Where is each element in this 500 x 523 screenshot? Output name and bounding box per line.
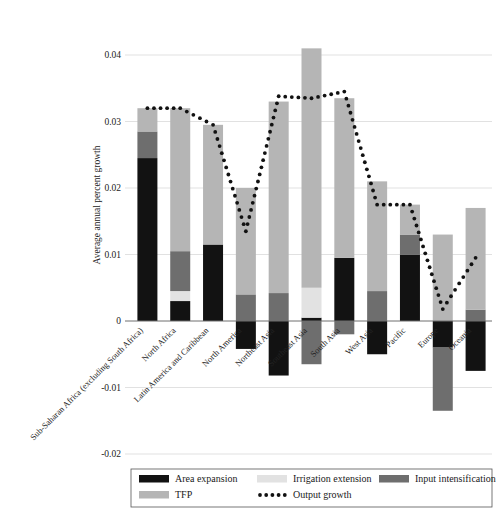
output-growth-dot: [249, 208, 253, 212]
output-growth-dot: [347, 104, 351, 108]
bar-segment: [170, 291, 190, 301]
output-growth-dot: [408, 203, 412, 207]
output-growth-dot: [296, 96, 300, 100]
y-tick-label: 0.02: [104, 183, 121, 193]
bar-segment: [236, 294, 256, 321]
output-growth-dot: [275, 101, 279, 105]
output-growth-dot: [470, 262, 474, 266]
output-growth-dot: [266, 137, 270, 141]
output-growth-dot: [216, 137, 220, 141]
bar-segment: [367, 291, 387, 321]
bar-segment: [269, 293, 289, 321]
output-growth-dot: [310, 96, 314, 100]
output-growth-dot: [415, 224, 419, 228]
legend-dot-marker: [277, 493, 281, 497]
output-growth-dot: [367, 174, 371, 178]
chart-legend: Area expansionIrrigation extensionInput …: [131, 469, 496, 507]
output-growth-dot: [426, 258, 430, 262]
output-growth-dot: [226, 173, 230, 177]
bar-segment: [137, 131, 157, 158]
x-axis-category-labels: Sub-Saharan Africa (excluding South Afri…: [28, 325, 473, 442]
output-growth-dot: [205, 120, 209, 124]
output-growth-dot: [430, 272, 434, 276]
bar-segment: [334, 98, 354, 258]
output-growth-dot: [465, 269, 469, 273]
output-growth-dot: [159, 106, 163, 110]
output-growth-dot: [323, 94, 327, 98]
output-growth-dot: [258, 172, 262, 176]
bar-segment: [203, 125, 223, 245]
output-growth-dot: [382, 203, 386, 207]
output-growth-dot: [457, 282, 461, 286]
output-growth-dot: [474, 256, 478, 260]
bar-segment: [269, 102, 289, 294]
output-growth-dot: [237, 208, 241, 212]
output-growth-dot: [401, 203, 405, 207]
bar-segment: [367, 321, 387, 354]
output-growth-dot: [359, 146, 363, 150]
output-growth-dot: [375, 203, 379, 207]
output-growth-dot: [253, 194, 257, 198]
output-growth-dot: [344, 97, 348, 101]
output-growth-dot: [222, 158, 226, 162]
output-growth-dot: [242, 222, 246, 226]
output-growth-dot: [373, 196, 377, 200]
output-growth-dot: [428, 265, 432, 269]
stacked-bar-chart: 0.040.030.020.010-0.01-0.02 Average annu…: [0, 0, 500, 523]
chart-figure: 0.040.030.020.010-0.01-0.02 Average annu…: [0, 0, 500, 523]
output-growth-dot: [178, 106, 182, 110]
bar-segment: [466, 310, 486, 321]
output-growth-dot: [256, 180, 260, 184]
output-growth-dot: [277, 94, 281, 98]
output-growth-dot: [260, 165, 264, 169]
output-growth-dot: [224, 165, 228, 169]
legend-dot-marker: [258, 493, 262, 497]
legend-dot-marker: [283, 493, 287, 497]
output-growth-dot: [316, 95, 320, 99]
output-growth-dot: [247, 215, 251, 219]
y-tick-label: -0.01: [101, 383, 121, 393]
output-growth-dot: [436, 293, 440, 297]
y-axis-label: Average annual percent growth: [92, 145, 102, 264]
output-growth-dot: [152, 106, 156, 110]
output-growth-dot: [417, 231, 421, 235]
legend-item: TFP: [139, 489, 193, 500]
output-growth-dot: [270, 123, 274, 127]
output-growth-dot: [246, 222, 250, 226]
output-growth-dot: [254, 187, 258, 191]
legend-swatch: [139, 491, 169, 499]
y-axis-title: Average annual percent growth: [92, 145, 102, 264]
output-growth-dot: [357, 139, 361, 143]
output-growth-dot: [365, 167, 369, 171]
output-growth-dot: [412, 217, 416, 221]
legend-swatch: [257, 475, 287, 483]
bar-segment: [137, 108, 157, 131]
output-growth-dot: [342, 90, 346, 94]
output-growth-dot: [432, 279, 436, 283]
bar-segment: [203, 245, 223, 321]
output-growth-dot: [218, 144, 222, 148]
legend-item-label: TFP: [175, 489, 193, 500]
output-growth-dot: [355, 132, 359, 136]
y-axis-ticks: 0.040.030.020.010-0.01-0.02: [101, 50, 121, 459]
bar-segment: [170, 301, 190, 321]
output-growth-dot: [229, 180, 233, 184]
legend-item: Area expansion: [139, 473, 237, 484]
output-growth-dot: [361, 153, 365, 157]
legend-item-label: Input intensification: [415, 473, 496, 484]
bar-segment: [400, 255, 420, 322]
y-tick-label: 0.04: [104, 50, 121, 60]
bar-segment: [334, 258, 354, 321]
legend-dot-marker: [264, 493, 268, 497]
output-growth-dot: [371, 189, 375, 193]
output-growth-dot: [369, 182, 373, 186]
bar-segment: [137, 158, 157, 321]
legend-item-label: Irrigation extension: [293, 473, 372, 484]
legend-item: Irrigation extension: [257, 473, 372, 484]
output-growth-dot: [220, 151, 224, 155]
output-growth-dot: [235, 201, 239, 205]
bar-segment: [302, 288, 322, 318]
output-growth-dot: [261, 158, 265, 162]
output-growth-dot: [272, 116, 276, 120]
output-growth-dot: [273, 109, 277, 113]
